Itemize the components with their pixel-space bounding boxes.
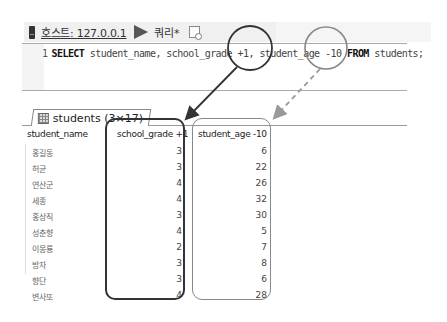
- code-line: 1SELECT student_name, school_grade +1, s…: [42, 48, 424, 59]
- query-tab[interactable]: 쿼리*: [154, 24, 179, 40]
- code-segment: student_name, school_grade: [84, 48, 237, 59]
- cell-name[interactable]: 세종: [32, 195, 46, 206]
- play-icon[interactable]: [134, 25, 148, 39]
- sql-editor[interactable]: 1SELECT student_name, school_grade +1, s…: [22, 43, 407, 91]
- code-plus-one: +1,: [238, 48, 254, 59]
- code-segment: student_age: [254, 48, 325, 59]
- query-toolbar: 호스트: 127.0.0.1 쿼리*: [24, 22, 276, 42]
- cell-name[interactable]: 허균: [32, 163, 46, 174]
- cell-name[interactable]: 이몽룡: [32, 243, 53, 254]
- keyword-select: SELECT: [51, 48, 84, 59]
- cell-name[interactable]: 홍길동: [32, 147, 53, 158]
- column-header-student-name[interactable]: student_name: [27, 129, 88, 139]
- line-gutter: [22, 44, 44, 90]
- cell-name[interactable]: 홍상직: [32, 211, 53, 222]
- cell-name[interactable]: 변사또: [32, 291, 53, 302]
- cell-name[interactable]: 향단: [32, 275, 46, 286]
- cell-name[interactable]: 연산군: [32, 179, 53, 190]
- new-query-tab-icon[interactable]: [189, 26, 200, 38]
- cell-name[interactable]: 성춘향: [32, 227, 53, 238]
- table-grid-icon: [38, 113, 49, 124]
- cell-name[interactable]: 방자: [32, 259, 46, 270]
- host-tab[interactable]: 호스트: 127.0.0.1: [41, 24, 126, 40]
- toolbar-fill: [276, 22, 431, 42]
- code-segment: students;: [369, 48, 424, 59]
- server-icon: [29, 26, 35, 39]
- line-number: 1: [42, 48, 47, 59]
- keyword-from: FROM: [347, 48, 369, 59]
- grade-column-highlight: [105, 118, 185, 300]
- code-minus-ten: -10: [325, 48, 341, 59]
- age-column-highlight: [192, 118, 271, 300]
